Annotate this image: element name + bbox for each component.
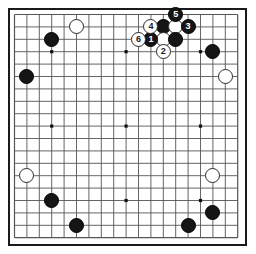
board-border [8, 8, 247, 246]
go-board-diagram: 123456 [0, 0, 256, 254]
